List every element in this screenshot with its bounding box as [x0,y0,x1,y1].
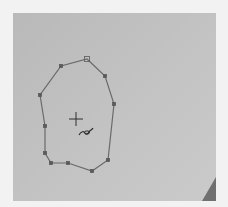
lasso-cursor-icon [79,128,93,135]
lasso-vertex-handle[interactable] [44,152,47,155]
lasso-vertex-handle[interactable] [107,159,110,162]
crosshair-cursor-icon [69,112,83,126]
lasso-vertex-handle[interactable] [44,125,47,128]
lasso-vertex-handles[interactable] [39,57,116,173]
lasso-vertex-handle[interactable] [113,103,116,106]
lasso-vertex-handle[interactable] [50,162,53,165]
lasso-selection-path[interactable] [40,59,114,171]
lasso-vertex-handle[interactable] [39,94,42,97]
lasso-vertex-handle[interactable] [60,65,63,68]
lasso-vertex-handle[interactable] [91,170,94,173]
selection-overlay [0,0,228,207]
lasso-vertex-handle[interactable] [104,75,107,78]
lasso-vertex-handle[interactable] [67,162,70,165]
window-frame [0,0,228,207]
